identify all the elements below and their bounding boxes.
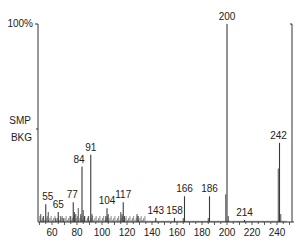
peak-label: 91 (85, 142, 97, 153)
x-tick-label: 140 (144, 227, 161, 238)
peak-label: 242 (270, 130, 287, 141)
peak-label: 166 (176, 183, 193, 194)
x-tick-label: 180 (194, 227, 211, 238)
x-tick-label: 100 (94, 227, 111, 238)
x-tick-label: 240 (269, 227, 286, 238)
peak-label: 158 (166, 205, 183, 216)
x-axis: 6080100120140160180200220240 (38, 222, 294, 238)
y-axis-right (290, 24, 292, 222)
bkg-label: BKG (11, 132, 32, 143)
peak-label: 200 (219, 11, 236, 22)
x-tick-label: 120 (119, 227, 136, 238)
x-tick-label: 60 (46, 227, 58, 238)
x-tick-label: 80 (71, 227, 83, 238)
peak-label: 214 (236, 207, 253, 218)
peak-labels: 5565778491104117143158166186200214242 (42, 11, 287, 218)
smp-label: SMP (9, 115, 31, 126)
peak-label: 84 (73, 154, 85, 165)
peak-label: 77 (67, 189, 79, 200)
peak-label: 117 (115, 189, 131, 200)
y-axis-left (35, 24, 38, 222)
peak-label: 143 (147, 205, 164, 216)
mass-spectrum-chart: 100% SMP BKG 608010012014016018020022024… (0, 0, 306, 249)
y-top-label: 100% (7, 18, 33, 29)
x-tick-label: 160 (169, 227, 186, 238)
x-tick-label: 220 (244, 227, 261, 238)
peak-label: 104 (99, 195, 116, 206)
peak-label: 186 (201, 183, 218, 194)
peak-label: 65 (53, 199, 65, 210)
x-tick-label: 200 (219, 227, 236, 238)
